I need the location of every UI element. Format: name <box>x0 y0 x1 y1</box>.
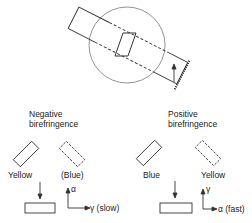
hatched-stage <box>175 61 190 90</box>
positive-title: Positive birefringence <box>168 109 217 129</box>
positive-title-line1: Positive <box>168 109 217 119</box>
negative-title: Negative birefringence <box>29 109 78 129</box>
crystal-tube <box>68 7 188 84</box>
positive-axis-horizontal-label: α (fast) <box>218 204 245 214</box>
negative-left-label: Yellow <box>8 170 32 180</box>
negative-title-line2: birefringence <box>29 119 78 129</box>
negative-right-label: (Blue) <box>61 170 84 180</box>
positive-yellow-plate-dashed <box>195 140 220 165</box>
negative-result-plate <box>25 203 55 213</box>
positive-right-label: Yellow <box>201 170 225 180</box>
positive-result-plate <box>160 203 192 213</box>
negative-yellow-plate <box>13 141 38 166</box>
negative-axis-vertical-label: α <box>71 184 76 194</box>
negative-axis-horizontal-label: γ (slow) <box>90 203 119 213</box>
negative-blue-plate-dashed <box>59 141 84 166</box>
positive-title-line2: birefringence <box>168 119 217 129</box>
positive-axis-vertical-label: γ <box>206 184 210 194</box>
positive-left-label: Blue <box>143 170 160 180</box>
positive-blue-plate <box>136 140 161 165</box>
compensator-wedge <box>115 33 136 56</box>
negative-title-line1: Negative <box>29 109 78 119</box>
